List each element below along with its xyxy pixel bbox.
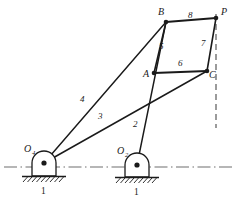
pivot-dot-o4: [41, 160, 46, 165]
link-4-line: [44, 22, 166, 163]
joint-label-b: B: [158, 6, 164, 17]
joint-dot-p: [214, 16, 219, 21]
joint-label-p: P: [220, 6, 227, 17]
link-label-7: 7: [201, 38, 206, 48]
link-label-4: 4: [80, 94, 85, 104]
joint-label-a: A: [142, 68, 150, 79]
ground-support-o2: [115, 153, 159, 183]
link-label-6: 6: [178, 58, 183, 68]
support-hatching-o2: [116, 178, 157, 183]
linkage-canvas: O 4 O 2 A B C P 2 3 4 5 6 7 8 1 1: [0, 0, 237, 200]
link-label-3: 3: [97, 111, 103, 121]
link-6-line: [154, 71, 207, 73]
joint-label-o4: O: [24, 143, 31, 154]
joint-dot-b: [164, 20, 169, 25]
joint-label-c: C: [209, 69, 216, 80]
joint-dot-a: [152, 71, 157, 76]
link-7-line: [207, 18, 216, 71]
support-hatching-o4: [23, 177, 64, 182]
link-label-5: 5: [159, 41, 164, 51]
link-label-2: 2: [133, 119, 138, 129]
link-3-line: [44, 71, 207, 163]
pivot-dot-o2: [134, 162, 139, 167]
linkage-diagram-figure: O 4 O 2 A B C P 2 3 4 5 6 7 8 1 1: [0, 0, 237, 200]
ground-link-label-right: 1: [134, 187, 139, 197]
joint-label-o2: O: [117, 145, 124, 156]
link-label-8: 8: [188, 10, 193, 20]
ground-link-label-left: 1: [41, 186, 46, 196]
